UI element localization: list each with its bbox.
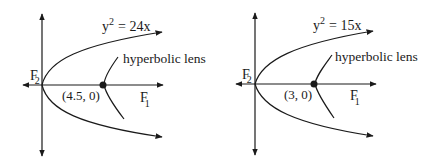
lens-vertex-point [100,82,107,89]
focus-f2-label: F2 [30,68,40,86]
focus-f1-label: F1 [140,90,150,109]
point-label: (3, 0) [284,87,312,102]
parabola-diagrams: y2= 24x hyperbolic lens (4.5, 0) F2 F1 y… [0,0,431,168]
point-label: (4.5, 0) [62,88,100,103]
diagram-left: y2= 24x hyperbolic lens (4.5, 0) F2 F1 [23,14,206,156]
lens-label: hyperbolic lens [335,49,418,64]
focus-f1-label: F1 [350,88,360,107]
lens-label: hyperbolic lens [123,51,206,66]
equation-label: y2= 15x [313,15,361,33]
equation-label: y2= 24x [102,16,150,34]
hyperbolic-lens-curve [104,57,124,119]
focus-f2-label: F2 [242,67,252,85]
hyperbolic-lens-curve [315,55,334,118]
diagram-right: y2= 15x hyperbolic lens (3, 0) F2 F1 [236,13,418,155]
